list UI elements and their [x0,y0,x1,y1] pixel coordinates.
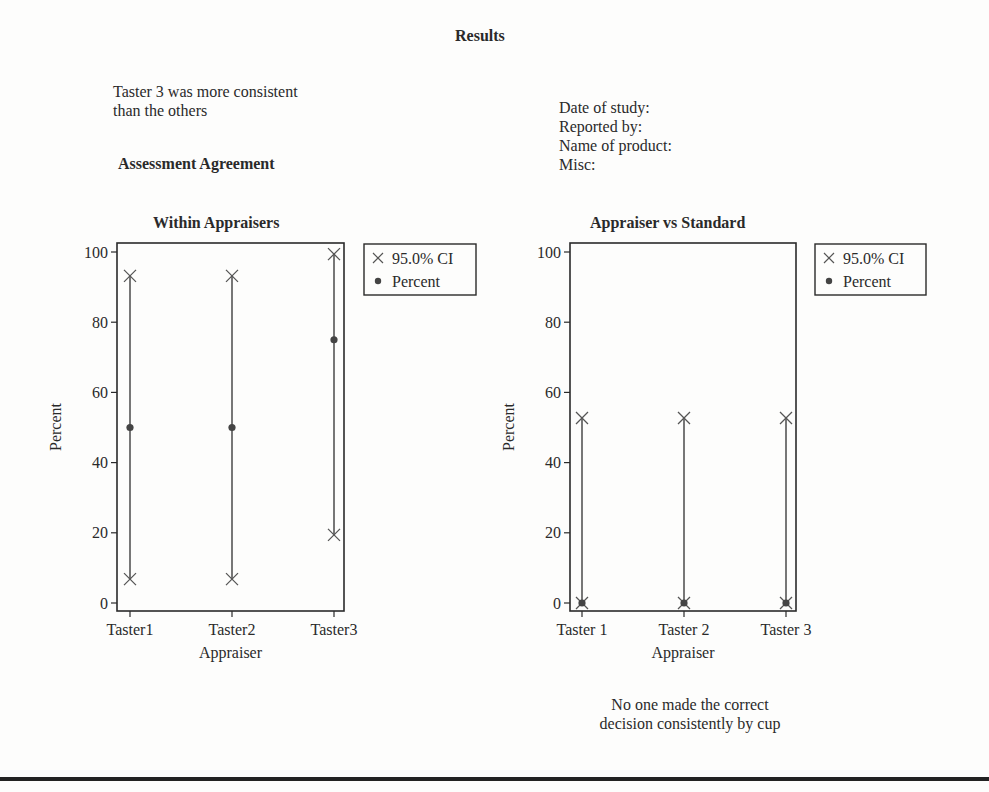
legend-percent-dot-icon [826,278,832,284]
legend-percent-label: Percent [843,273,892,290]
legend-ci-x-icon [824,253,834,263]
percent-dot-icon [782,599,789,606]
x-tick-label: Taster 2 [659,621,710,638]
page-divider-rule [0,777,989,781]
legend-ci-label: 95.0% CI [843,250,904,267]
x-tick-label: Taster 3 [761,621,812,638]
y-tick-label: 80 [545,314,561,331]
percent-dot-icon [680,599,687,606]
y-tick-label: 60 [545,384,561,401]
y-tick-label: 40 [545,454,561,471]
y-axis-label: Percent [500,402,517,451]
bottom-note: No one made the correct decision consist… [560,695,820,733]
y-tick-label: 0 [553,595,561,612]
bottom-note-line-1: No one made the correct [560,695,820,714]
x-axis-label: Appraiser [651,644,715,662]
x-tick-label: Taster 1 [557,621,608,638]
bottom-note-line-2: decision consistently by cup [560,714,820,733]
chart-appraiser-vs-standard: 020406080100PercentTaster 1Taster 2Taste… [0,0,989,792]
plot-frame [570,243,796,611]
y-tick-label: 20 [545,524,561,541]
percent-dot-icon [578,599,585,606]
y-tick-label: 100 [537,244,561,261]
